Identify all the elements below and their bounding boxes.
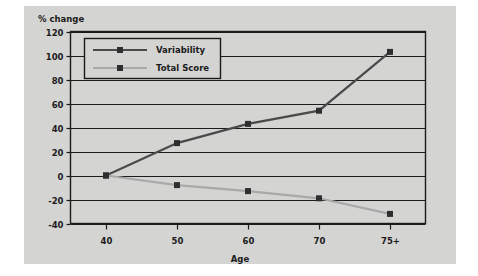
y-tick-label: 80 <box>52 76 64 86</box>
x-axis-ticks: 4050607075+ <box>101 224 400 246</box>
data-point-marker <box>245 121 251 127</box>
x-tick-label: 40 <box>101 236 113 246</box>
data-point-marker <box>316 108 322 114</box>
y-tick-label: 40 <box>52 124 64 134</box>
data-point-marker <box>174 140 180 146</box>
y-axis-ticks: 120100806040200-20-40 <box>46 28 71 230</box>
series-total-score <box>103 173 393 217</box>
y-tick-label: 120 <box>46 28 64 38</box>
chart-legend: VariabilityTotal Score <box>85 39 221 79</box>
y-axis-title: % change <box>38 14 84 24</box>
chart-canvas: % change 120100806040200-20-40 405060707… <box>0 0 478 276</box>
y-tick-label: 100 <box>46 52 64 62</box>
legend-swatch-marker <box>117 47 123 53</box>
legend-swatch-marker <box>117 65 123 71</box>
y-tick-label: -20 <box>48 196 63 206</box>
x-tick-label: 50 <box>172 236 184 246</box>
data-point-marker <box>387 49 393 55</box>
legend-label: Total Score <box>156 63 209 73</box>
series-line <box>106 176 390 214</box>
data-point-marker <box>387 211 393 217</box>
chart-figure: % change 120100806040200-20-40 405060707… <box>0 0 478 276</box>
y-tick-label: 60 <box>52 100 64 110</box>
y-tick-label: -40 <box>48 220 63 230</box>
x-axis-title: Age <box>231 254 250 264</box>
x-tick-label: 75+ <box>381 236 400 246</box>
data-point-marker <box>103 173 109 179</box>
data-point-marker <box>174 182 180 188</box>
x-tick-label: 60 <box>243 236 255 246</box>
y-tick-label: 0 <box>58 172 64 182</box>
data-point-marker <box>245 188 251 194</box>
data-point-marker <box>316 195 322 201</box>
y-tick-label: 20 <box>52 148 64 158</box>
x-tick-label: 70 <box>314 236 326 246</box>
legend-label: Variability <box>156 45 206 55</box>
